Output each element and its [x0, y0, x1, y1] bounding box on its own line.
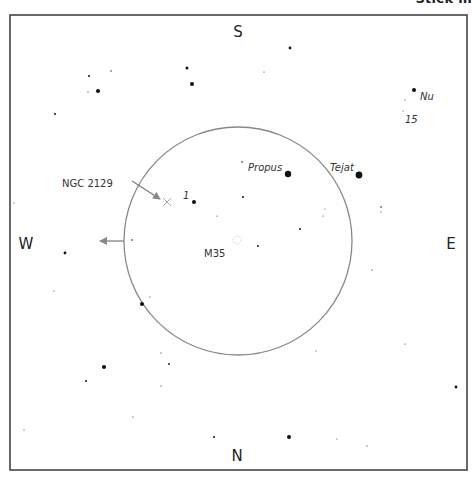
south-label: S — [233, 23, 243, 41]
star — [140, 302, 144, 306]
star — [64, 252, 67, 255]
star — [356, 172, 363, 179]
star — [366, 445, 367, 446]
east-label: E — [446, 235, 455, 253]
star-label: Nu — [420, 91, 434, 102]
star — [96, 89, 100, 93]
star — [54, 113, 56, 115]
star — [54, 291, 55, 292]
star-label: 15 — [405, 114, 418, 125]
star-label: 1 — [183, 190, 189, 201]
north-label: N — [231, 447, 242, 465]
star — [192, 200, 196, 204]
star — [14, 203, 15, 204]
star — [287, 435, 291, 439]
ngc-2129-label: NGC 2129 — [62, 178, 113, 189]
star — [325, 209, 326, 210]
star — [186, 67, 189, 70]
star — [160, 385, 161, 386]
star — [87, 91, 88, 92]
star — [85, 380, 87, 382]
star — [242, 196, 244, 198]
star — [131, 239, 133, 241]
star — [299, 228, 301, 230]
chart-frame — [10, 15, 467, 470]
m35-cluster-icon — [233, 236, 241, 244]
star-label: Tejat — [330, 162, 355, 173]
star — [455, 386, 458, 389]
star-chart: N S E W NGC 2129 M35 PropusTejat1Nu15 — [0, 0, 472, 480]
star — [316, 351, 317, 352]
star — [168, 363, 170, 365]
star — [403, 111, 404, 112]
star — [213, 436, 215, 438]
star — [371, 269, 372, 270]
finder-field-circle — [124, 127, 352, 355]
m35-label: M35 — [204, 248, 225, 259]
star — [160, 352, 161, 353]
star — [405, 100, 406, 101]
star — [88, 75, 90, 77]
star — [404, 343, 405, 344]
star — [102, 365, 106, 369]
star — [289, 47, 292, 50]
star — [381, 212, 382, 213]
star — [150, 297, 151, 298]
star — [217, 216, 218, 217]
star — [110, 70, 111, 71]
star — [257, 245, 259, 247]
star-label: Propus — [248, 162, 282, 173]
ngc-2129-cluster-marker-icon — [163, 198, 171, 206]
star-labels: PropusTejat1Nu15 — [183, 91, 434, 201]
star — [24, 430, 25, 431]
west-label: W — [19, 235, 34, 253]
star — [241, 161, 243, 163]
star — [412, 88, 416, 92]
star — [337, 439, 338, 440]
star-field — [14, 47, 458, 447]
star — [190, 82, 194, 86]
star — [132, 416, 133, 417]
star — [323, 216, 324, 217]
star — [285, 171, 291, 177]
star — [263, 71, 264, 72]
star — [380, 206, 382, 208]
